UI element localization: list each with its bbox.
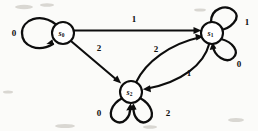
transition-label-s2-self-2: 2 <box>166 108 171 118</box>
state-node-s1[interactable]: s1 <box>201 22 223 44</box>
transition-s1-s2-arrowhead <box>143 85 151 92</box>
transition-label-s0-s2: 2 <box>97 43 102 53</box>
state-node-s0[interactable]: s0 <box>52 22 74 44</box>
transition-label-s0-s1: 1 <box>132 14 137 24</box>
transition-label-s2-s1: 2 <box>154 44 159 54</box>
transition-label-s1-self-0: 0 <box>237 59 242 69</box>
transition-label-s0-self-0: 0 <box>12 28 17 38</box>
transition-s0-s2-path <box>72 42 118 81</box>
transition-s1-s2 <box>143 45 209 93</box>
transition-label-s2-self-0: 0 <box>97 108 102 118</box>
state-node-s2[interactable]: s2 <box>120 81 142 103</box>
transition-s0-self-0-arrowhead <box>46 39 53 44</box>
fsm-canvas: s0 s1 s2 0 1 2 2 1 1 0 0 2 <box>0 0 258 131</box>
transition-s2-s1 <box>137 34 204 82</box>
transition-label-s1-self-1: 1 <box>245 17 250 27</box>
transition-label-s1-s2: 1 <box>187 68 192 78</box>
state-machine-diagram: s0 s1 s2 0 1 2 2 1 1 0 0 2 <box>0 0 258 131</box>
transition-s0-s1 <box>74 27 202 34</box>
